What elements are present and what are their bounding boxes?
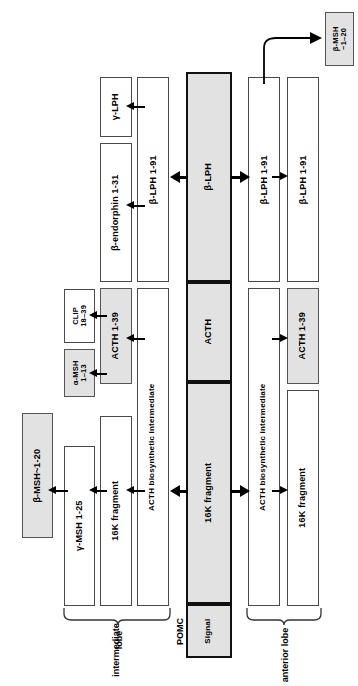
ant-product-beta-lph-1-91-label: β-LPH 1-91 [298, 155, 307, 204]
int-final-beta-msh-1-20-label: β-MSH~1-20 [33, 449, 42, 503]
arrow-16k-to-gamma-msh-body [97, 490, 107, 492]
arrow-int-to-gamma-lph-head [126, 102, 134, 110]
int-peptide-gamma-msh-1-25-label: γ-MSH 1-25 [75, 501, 84, 552]
arrow-pomc-to-ant-16k-head [240, 485, 250, 497]
arrow-ant-to-beta-lph-head [280, 172, 288, 180]
pomc-segment-beta-lph: β-LPH [186, 72, 232, 282]
arrow-int-to-16k-head [126, 486, 134, 494]
pomc-segment-signal: Signal [186, 604, 232, 658]
arrow-pomc-to-int-beta-lph-body [178, 176, 188, 179]
ant-product-16k-fragment-label: 16K fragment [298, 468, 307, 528]
arrow-pomc-to-int-16k-head [170, 485, 180, 497]
pomc-segment-beta-lph-label: β-LPH [204, 163, 213, 191]
arrow-pomc-to-ant-beta-lph-head [240, 171, 250, 183]
int-peptide-alpha-msh-1-13-label: α-MSH1–13 [72, 361, 88, 386]
pomc-segment-signal-label: Signal [205, 618, 213, 643]
arrow-int-to-acth-1-39-head [126, 334, 134, 342]
ant-final-beta-msh-1-20: β-MSH~1–20 [325, 12, 354, 66]
ant-product-16k-fragment: 16K fragment [287, 390, 319, 606]
int-intermediate-beta-lph-1-91-label: β-LPH 1-91 [148, 155, 157, 204]
ant-intermediate-acth-biosynthetic-label: ACTH biosynthetic intermediate [260, 383, 268, 510]
int-intermediate-acth-biosynthetic-label: ACTH biosynthetic intermediate [149, 383, 157, 510]
arrow-int-to-beta-endorphin-head [126, 201, 134, 209]
arrow-acth-to-alpha-msh-head [89, 369, 97, 377]
ant-final-beta-msh-1-20-label: β-MSH~1–20 [332, 27, 348, 52]
pomc-segment-acth-label: ACTH [204, 319, 213, 345]
int-peptide-gamma-msh-1-25: γ-MSH 1-25 [64, 446, 95, 606]
pomc-segment-16k-fragment-label: 16K fragment [204, 463, 213, 523]
arrow-int-to-beta-endorphin-body [134, 205, 145, 207]
ant-intermediate-acth-biosynthetic: ACTH biosynthetic intermediate [248, 288, 280, 606]
arrow-gamma-msh-to-beta-msh-body [56, 490, 68, 492]
int-product-beta-endorphin-1-31-label: β-endorphin 1-31 [111, 174, 120, 250]
brace-anterior-lobe [245, 608, 323, 626]
arrow-gamma-msh-to-beta-msh-head [48, 486, 56, 494]
int-final-beta-msh-1-20: β-MSH~1-20 [22, 413, 53, 538]
ant-product-beta-lph-1-91: β-LPH 1-91 [287, 77, 319, 282]
arrow-acth-to-clip-head [89, 311, 97, 319]
arrow-ant-to-acth-1-39-head [280, 334, 288, 342]
pomc-segment-acth: ACTH [186, 282, 232, 382]
int-product-16k-fragment: 16K fragment [100, 416, 132, 606]
ant-intermediate-beta-lph-1-91-label: β-LPH 1-91 [259, 155, 268, 204]
ant-product-acth-1-39-label: ACTH 1-39 [298, 312, 307, 359]
pomc-processing-diagram: β-LPH ACTH 16K fragment Signal POMC β-LP… [0, 0, 358, 686]
int-product-gamma-lph-label: γ-LPH [111, 93, 120, 120]
ant-intermediate-beta-lph-1-91: β-LPH 1-91 [248, 77, 280, 282]
int-product-acth-1-39-label: ACTH 1-39 [111, 312, 120, 359]
arrow-acth-to-alpha-msh-body [97, 373, 107, 375]
arrow-ant-beta-lph-to-beta-msh [258, 22, 328, 84]
arrow-int-to-acth-1-39-body [134, 338, 145, 340]
int-intermediate-acth-biosynthetic: ACTH biosynthetic intermediate [137, 288, 169, 606]
pomc-segment-16k-fragment: 16K fragment [186, 382, 232, 604]
intermediate-lobe-label-line2: lobe [114, 631, 124, 650]
int-intermediate-beta-lph-1-91: β-LPH 1-91 [137, 77, 169, 282]
arrow-int-to-gamma-lph-body [134, 106, 145, 108]
anterior-lobe-label: anterior lobe [280, 628, 290, 683]
arrow-acth-to-clip-body [97, 315, 107, 317]
ant-product-acth-1-39: ACTH 1-39 [287, 288, 319, 384]
arrow-int-to-16k-body [134, 490, 145, 492]
arrow-ant-to-16k-head [280, 486, 288, 494]
arrow-16k-to-gamma-msh-head [89, 486, 97, 494]
int-peptide-clip-18-39-label: CLIP18–39 [72, 305, 88, 327]
int-product-16k-fragment-label: 16K fragment [111, 481, 120, 541]
int-product-beta-endorphin-1-31: β-endorphin 1-31 [100, 143, 132, 282]
